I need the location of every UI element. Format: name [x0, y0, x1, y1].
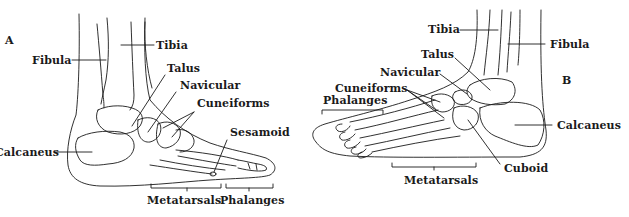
label-a-sesamoid: Sesamoid [230, 127, 290, 138]
label-b-fibula: Fibula [550, 39, 590, 50]
label-a-phalanges: Phalanges [220, 195, 284, 206]
panel-a-letter: A [5, 35, 14, 46]
label-b-talus: Talus [421, 49, 454, 60]
label-a-metatarsals: Metatarsals [147, 195, 221, 206]
label-a-cuneiforms: Cuneiforms [197, 98, 270, 109]
label-b-phalanges: Phalanges [323, 95, 387, 106]
label-a-fibula: Fibula [32, 55, 72, 66]
foot-bones-illustration [0, 0, 629, 217]
label-b-calcaneus: Calcaneus [557, 120, 621, 131]
label-b-navicular: Navicular [380, 67, 440, 78]
label-a-navicular: Navicular [180, 80, 240, 91]
panel-b-letter: B [562, 75, 571, 86]
panel-a-leader-lines [55, 45, 273, 191]
label-b-metatarsals: Metatarsals [404, 175, 478, 186]
label-b-cuboid: Cuboid [504, 163, 548, 174]
label-b-cuneiforms: Cuneiforms [335, 83, 408, 94]
label-a-talus: Talus [167, 63, 200, 74]
foot-anatomy-diagram: A Fibula Tibia Talus Navicular Cuneiform… [0, 0, 629, 217]
label-a-calcaneus: Calcaneus [0, 147, 59, 158]
label-b-tibia: Tibia [428, 24, 460, 35]
label-a-tibia: Tibia [156, 40, 188, 51]
